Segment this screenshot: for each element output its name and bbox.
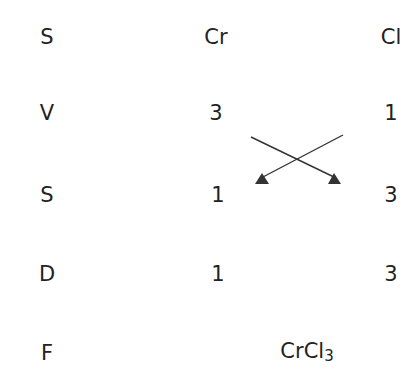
cross-arrows-icon [0, 0, 419, 383]
